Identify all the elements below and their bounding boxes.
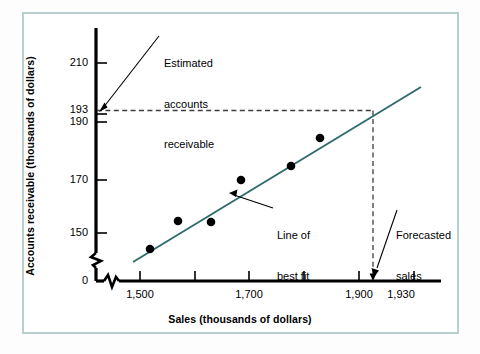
- annotation-line: sales: [396, 270, 451, 284]
- data-point: [237, 176, 246, 185]
- y-tick-label-193: 193: [48, 103, 88, 115]
- y-tick-label-210: 210: [48, 56, 88, 68]
- annotation-line: best fit: [277, 270, 310, 284]
- line-of-best-fit-annotation: Line of best fit: [277, 202, 310, 310]
- data-point: [287, 162, 296, 171]
- y-tick-label-170: 170: [48, 173, 88, 185]
- annotation-line: Line of: [277, 229, 310, 243]
- x-axis-break-icon: [104, 275, 119, 287]
- y-tick-marks: [97, 63, 107, 233]
- data-point: [146, 245, 155, 254]
- x-axis-title: Sales (thousands of dollars): [140, 313, 340, 325]
- annotation-line: Estimated: [164, 57, 214, 71]
- y-tick-label-0: 0: [48, 274, 88, 286]
- y-axis-break-icon: [91, 253, 101, 268]
- chart-figure: 210 193 190 170 150 0 1,500 1,700 1,900 …: [0, 0, 480, 354]
- x-tick-label-1500: 1,500: [110, 288, 170, 300]
- annotation-line: receivable: [164, 138, 214, 152]
- annotation-line: accounts: [164, 98, 214, 112]
- data-point: [207, 218, 216, 227]
- y-axis-title: Accounts receivable (thousands of dollar…: [24, 50, 36, 282]
- annotation-line: Forecasted: [396, 229, 451, 243]
- forecasted-sales-leader: [377, 210, 397, 268]
- data-point: [174, 217, 183, 226]
- y-tick-label-150: 150: [48, 226, 88, 238]
- y-tick-label-190: 190: [48, 115, 88, 127]
- estimated-accounts-receivable-annotation: Estimated accounts receivable: [164, 30, 214, 179]
- data-point: [316, 134, 325, 143]
- x-tick-label-1700: 1,700: [219, 288, 279, 300]
- line-of-best-fit-leader: [234, 195, 273, 208]
- forecasted-sales-annotation: Forecasted sales: [396, 202, 451, 310]
- estimated-accounts-receivable-leader: [103, 36, 159, 108]
